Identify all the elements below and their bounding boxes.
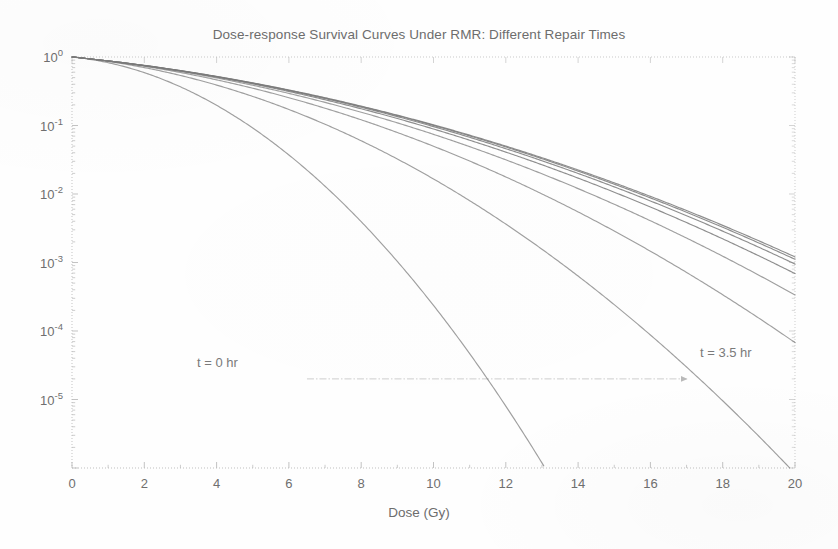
- figure-canvas: Dose-response Survival Curves Under RMR:…: [0, 0, 838, 549]
- axis-ticks: [72, 57, 795, 468]
- survival-curves: [72, 57, 795, 468]
- curve-t-0-hr: [72, 57, 544, 466]
- curve-t-2-0-hr: [72, 57, 795, 274]
- x-tick-label-6: 12: [499, 476, 513, 491]
- x-tick-label-7: 14: [571, 476, 585, 491]
- x-tick-label-5: 10: [426, 476, 440, 491]
- y-tick-label-1: 10-1: [40, 118, 63, 133]
- y-tick-label-0: 100: [43, 50, 63, 65]
- curve-t-1-0-hr: [72, 57, 795, 343]
- x-tick-label-0: 0: [68, 476, 75, 491]
- curve-t-2-5-hr: [72, 57, 795, 264]
- axis-frame: [72, 57, 795, 468]
- plot-area: [0, 0, 838, 549]
- curve-t-1-5-hr: [72, 57, 795, 295]
- x-tick-label-8: 16: [643, 476, 657, 491]
- x-tick-label-9: 18: [715, 476, 729, 491]
- y-tick-label-3: 10-3: [40, 255, 63, 270]
- annotation-t-three-point-five: t = 3.5 hr: [700, 345, 752, 360]
- x-tick-label-10: 20: [788, 476, 802, 491]
- x-axis-title: Dose (Gy): [0, 505, 838, 520]
- y-tick-label-2: 10-2: [40, 187, 63, 202]
- x-tick-label-2: 4: [213, 476, 220, 491]
- curve-t-0-5-hr: [72, 57, 790, 468]
- x-tick-label-3: 6: [285, 476, 292, 491]
- x-tick-label-4: 8: [358, 476, 365, 491]
- y-tick-label-4: 10-4: [40, 324, 63, 339]
- x-tick-label-1: 2: [141, 476, 148, 491]
- annotation-t-zero: t = 0 hr: [197, 355, 238, 370]
- y-tick-label-5: 10-5: [40, 392, 63, 407]
